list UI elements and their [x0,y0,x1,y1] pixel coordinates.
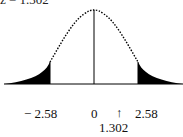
right-critical-label: 2.58 [135,107,158,120]
test-statistic-label: 1.302 [99,121,128,134]
left-critical-label: − 2.58 [24,107,57,120]
center-label: 0 [91,107,98,120]
arrow-up-icon: ↑ [116,106,123,119]
right-tail-region [138,62,183,84]
left-tail-region [4,62,50,84]
